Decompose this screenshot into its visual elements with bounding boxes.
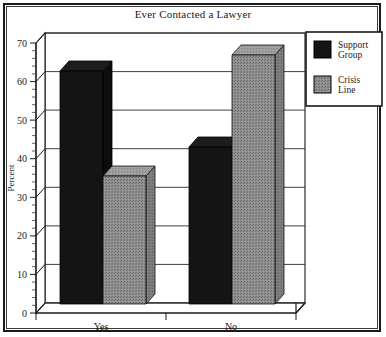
y-tick-label-50: 50 [17, 115, 27, 126]
plot-floor [36, 303, 305, 313]
y-tick-label-40: 40 [17, 153, 27, 164]
y-tick-label-60: 60 [17, 76, 27, 87]
y-tick-label-70: 70 [17, 38, 27, 49]
legend-swatch-crisis-line [314, 76, 331, 93]
legend-label-support-group-line1: Support [338, 40, 368, 50]
chart-legend: Support Group Crisis Line [306, 32, 382, 106]
legend-swatch-support-group [314, 41, 331, 58]
legend-label-support-group-line2: Group [338, 50, 363, 60]
y-tick-label-30: 30 [17, 192, 27, 203]
y-tick-label-10: 10 [17, 269, 27, 280]
y-tick-label-0: 0 [22, 308, 27, 319]
x-axis-ticks [36, 313, 296, 320]
legend-label-crisis-line-line1: Crisis [338, 75, 360, 85]
chart-figure: Ever Contacted a Lawyer [0, 0, 386, 337]
bar-crisis-line-yes [103, 166, 155, 304]
y-axis-ticks [30, 43, 36, 313]
y-axis-tick-labels: 0 10 20 30 40 50 60 70 [17, 38, 27, 319]
bar-crisis-line-no [232, 45, 284, 304]
plot-left-wall [36, 33, 45, 313]
y-tick-label-20: 20 [17, 230, 27, 241]
y-axis-title: Percent [6, 164, 16, 191]
legend-label-crisis-line-line2: Line [338, 85, 355, 95]
x-tick-label-yes: Yes [94, 321, 109, 332]
chart-plot-area: 0 10 20 30 40 50 60 70 Percent Yes No Su… [0, 0, 386, 337]
x-tick-label-no: No [225, 321, 237, 332]
